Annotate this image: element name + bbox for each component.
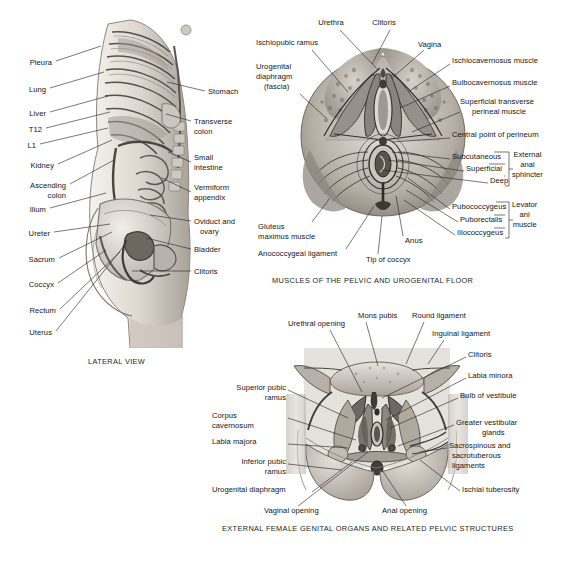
label-inferior-pubic-ramus-2: ramus (196, 467, 286, 477)
label-uterus: Uterus (0, 328, 52, 338)
label-oviduct-and-ovary: Oviduct and (194, 217, 235, 227)
label-bulbocavernosus-muscle: Bulbocavernosus muscle (452, 78, 538, 88)
label-lung: Lung (0, 85, 46, 95)
group-external-anal-sphincter-line-1: External (512, 150, 543, 160)
label-t12: T12 (0, 125, 42, 135)
label-anus: Anus (405, 236, 423, 246)
external-genitalia-illustration (286, 334, 468, 506)
label-deep: Deep (490, 176, 508, 186)
label-subcutaneous: Subcutaneous (452, 152, 501, 162)
label-ascending-colon-2: colon (0, 191, 66, 201)
group-levator-ani-muscle-line-2: ani (512, 210, 537, 220)
label-anal-opening: Anal opening (382, 506, 427, 516)
label-sacrospinous-sacrotuberous-ligaments-2: sacrotuberous (452, 451, 501, 461)
label-ischiopubic-ramus: Ischiopubic ramus (256, 38, 318, 48)
label-corpus-cavernosum-2: cavernosum (212, 421, 254, 431)
group-external-anal-sphincter: External anal sphincter (512, 150, 543, 181)
label-corpus-cavernosum: Corpus (212, 411, 237, 421)
label-kidney: Kidney (0, 161, 54, 171)
label-bladder: Bladder (194, 245, 221, 255)
label-clitoris-floor: Clitoris (360, 18, 408, 28)
label-rectum: Rectum (0, 306, 56, 316)
label-labia-minora: Labia minora (468, 371, 513, 381)
label-superior-pubic-ramus-2: ramus (196, 393, 286, 403)
label-gluteus-maximus-muscle-2: maximus muscle (258, 232, 315, 242)
label-coccyx: Coccyx (0, 280, 54, 290)
label-gluteus-maximus-muscle: Gluteus (258, 222, 285, 232)
group-external-anal-sphincter-line-3: sphincter (512, 170, 543, 180)
label-labia-majora: Labia majora (212, 437, 257, 447)
group-external-anal-sphincter-line-2: anal (512, 160, 543, 170)
label-oviduct-and-ovary-2: ovary (200, 227, 219, 237)
label-superficial: Superficial (466, 164, 502, 174)
caption-pelvic-floor: MUSCLES OF THE PELVIC AND UROGENITAL FLO… (272, 276, 473, 285)
label-urogenital-diaphragm-floor: Urogenital (256, 62, 291, 72)
label-vermiform-appendix: Vermiform (194, 183, 229, 193)
label-round-ligament: Round ligament (412, 311, 466, 321)
label-ascending-colon: Ascending (0, 181, 66, 191)
label-stomach: Stomach (208, 87, 238, 97)
label-iliococcygeus: Iliococcygeus (457, 228, 503, 238)
label-urogenital-diaphragm-floor-2: diaphragm (256, 72, 292, 82)
label-ischiocavernosus-muscle: Ischiocavernosus muscle (452, 56, 538, 66)
label-transverse-colon-2: colon (194, 127, 212, 137)
label-superior-pubic-ramus: Superior pubic (196, 383, 286, 393)
label-l1: L1 (0, 141, 36, 151)
label-sacrum: Sacrum (0, 255, 55, 265)
lateral-view-illustration (78, 18, 200, 348)
label-clitoris-external: Clitoris (468, 350, 492, 360)
label-transverse-colon: Transverse (194, 117, 232, 127)
label-vaginal-opening: Vaginal opening (264, 506, 319, 516)
pelvic-floor-illustration (296, 40, 471, 220)
label-ureter: Ureter (0, 229, 50, 239)
label-inguinal-ligament: Inguinal ligament (432, 329, 490, 339)
label-inferior-pubic-ramus: Inferior pubic (196, 457, 286, 467)
label-small-intestine-2: intestine (194, 163, 223, 173)
group-levator-ani-muscle-line-3: muscle (512, 220, 537, 230)
label-ischial-tuberosity: Ischial tuberosity (462, 485, 519, 495)
label-urethral-opening: Urethral opening (288, 319, 345, 329)
label-sacrospinous-sacrotuberous-ligaments: Sacrospinous and (449, 441, 511, 451)
caption-external-genitalia: EXTERNAL FEMALE GENITAL ORGANS AND RELAT… (222, 524, 514, 533)
caption-lateral-view: LATERAL VIEW (88, 357, 145, 366)
label-pubococcygeus: Pubococcygeus (452, 202, 506, 212)
label-vagina: Vagina (418, 40, 441, 50)
label-greater-vestibular-glands-2: glands (482, 428, 505, 438)
label-vermiform-appendix-2: appendix (194, 193, 225, 203)
group-levator-ani-muscle: Levator ani muscle (512, 200, 537, 231)
label-bulb-of-vestibule: Bulb of vestibule (460, 391, 517, 401)
label-anococcygeal-ligament: Anococcygeal ligament (258, 249, 337, 259)
label-puborectalis: Puborectalis (460, 215, 502, 225)
group-levator-ani-muscle-line-1: Levator (512, 200, 537, 210)
label-superficial-transverse-perineal-muscle-2: perineal muscle (472, 107, 526, 117)
label-urethra: Urethra (306, 18, 356, 28)
label-superficial-transverse-perineal-muscle: Superficial transverse (460, 97, 534, 107)
label-mons-pubis: Mons pubis (358, 311, 397, 321)
label-pleura: Pleura (0, 58, 52, 68)
label-greater-vestibular-glands: Greater vestibular (456, 418, 517, 428)
label-liver: Liver (0, 109, 46, 119)
label-small-intestine: Small (194, 153, 213, 163)
label-central-point-of-perineum: Central point of perineum (452, 130, 539, 140)
label-clitoris-lateral: Clitoris (194, 267, 218, 277)
label-urogenital-diaphragm-floor-3: (fascia) (264, 82, 289, 92)
label-ilium: Ilium (0, 205, 46, 215)
label-tip-of-coccyx: Tip of coccyx (366, 255, 411, 265)
label-urogenital-diaphragm-external: Urogenital diaphragm (212, 485, 286, 495)
label-sacrospinous-sacrotuberous-ligaments-3: ligaments (452, 461, 485, 471)
